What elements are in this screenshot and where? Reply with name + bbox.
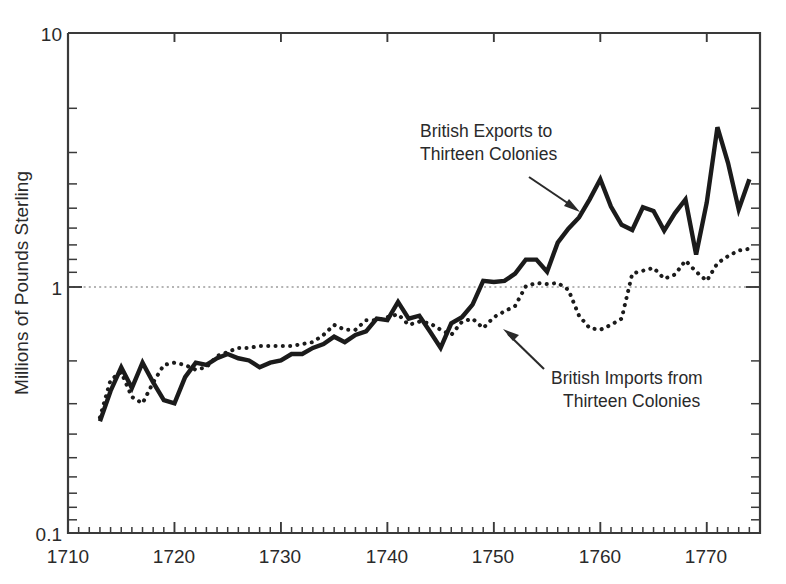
y-tick-label-0.1: 0.1: [36, 524, 62, 545]
y-tick-label-10: 10: [41, 24, 62, 45]
annotation-imports: British Imports from Thirteen Colonies: [503, 329, 703, 411]
plot-frame: [68, 33, 760, 533]
x-tick-label-1760: 1760: [579, 546, 621, 567]
annotation-exports-line2: Thirteen Colonies: [420, 144, 557, 164]
x-tick-label-1770: 1770: [685, 546, 727, 567]
annotation-imports-arrowhead: [503, 329, 519, 341]
y-axis-minor-ticks: [68, 108, 760, 520]
x-axis-ticks: [68, 33, 760, 533]
x-tick-label-1730: 1730: [259, 546, 301, 567]
annotation-exports-line1: British Exports to: [420, 121, 552, 141]
x-tick-label-1710: 1710: [47, 546, 89, 567]
annotation-exports: British Exports to Thirteen Colonies: [420, 121, 580, 212]
x-tick-label-1720: 1720: [153, 546, 195, 567]
x-tick-label-1750: 1750: [472, 546, 514, 567]
x-tick-label-1740: 1740: [366, 546, 408, 567]
chart-figure: 10 1 0.1 1710 1720 1730 1740 1750 1760 1…: [0, 0, 786, 584]
y-tick-label-1: 1: [51, 278, 62, 299]
annotation-imports-line1: British Imports from: [551, 368, 703, 388]
chart-svg: 10 1 0.1 1710 1720 1730 1740 1750 1760 1…: [0, 0, 786, 584]
annotation-imports-line2: Thirteen Colonies: [563, 391, 700, 411]
y-axis-major-ticks: [68, 33, 760, 533]
y-axis-title: Millions of Pounds Sterling: [11, 171, 32, 395]
